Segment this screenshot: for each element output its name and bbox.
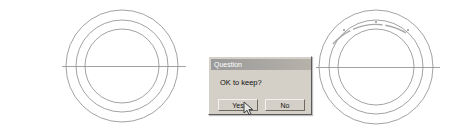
- left-concentric-circles[interactable]: [62, 10, 186, 122]
- no-button[interactable]: No: [265, 99, 305, 111]
- left-circle-inner[interactable]: [85, 29, 159, 103]
- left-circle-middle[interactable]: [76, 20, 168, 112]
- dialog-button-row: Yes No: [209, 99, 313, 114]
- question-dialog[interactable]: Question OK to keep? Yes No: [208, 56, 312, 115]
- dialog-message-text: OK to keep?: [220, 78, 262, 87]
- right-top-highlighted-arc[interactable]: [333, 24, 419, 44]
- right-circle-outer[interactable]: [319, 10, 433, 124]
- arc-grip-center[interactable]: [375, 21, 377, 23]
- arc-grip-right[interactable]: [407, 29, 409, 31]
- right-concentric-circles[interactable]: [316, 10, 440, 124]
- drawing-canvas[interactable]: Question OK to keep? Yes No: [0, 0, 461, 135]
- dialog-titlebar[interactable]: Question: [211, 59, 311, 70]
- left-circle-outer[interactable]: [66, 10, 178, 122]
- right-circle-inner[interactable]: [338, 29, 414, 105]
- yes-button[interactable]: Yes: [218, 99, 258, 111]
- dialog-title: Question: [211, 61, 242, 69]
- arc-grip-left[interactable]: [343, 29, 345, 31]
